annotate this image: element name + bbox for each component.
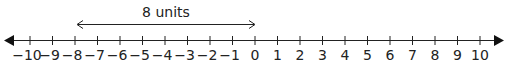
- tick-label: 0: [251, 47, 260, 63]
- distance-label: 8 units: [142, 4, 190, 20]
- tick-label: −3: [174, 47, 195, 63]
- left-end-arrow-icon: [4, 35, 14, 46]
- tick-label: −8: [62, 47, 83, 63]
- tick-label: 4: [341, 47, 350, 63]
- tick-label: −7: [84, 47, 105, 63]
- tick-label: −10: [12, 47, 42, 63]
- number-line: −10−9−8−7−6−5−4−3−2−1012345678910: [4, 35, 504, 63]
- tick-label: 6: [386, 47, 395, 63]
- tick-labels: −10−9−8−7−6−5−4−3−2−1012345678910: [12, 47, 489, 63]
- tick-marks: [30, 36, 480, 45]
- tick-label: −4: [152, 47, 173, 63]
- tick-label: 3: [318, 47, 327, 63]
- tick-label: 7: [408, 47, 417, 63]
- tick-label: −9: [39, 47, 60, 63]
- tick-label: 2: [296, 47, 305, 63]
- tick-label: −1: [219, 47, 240, 63]
- tick-label: 1: [273, 47, 282, 63]
- tick-label: 8: [431, 47, 440, 63]
- tick-label: −2: [197, 47, 218, 63]
- tick-label: 5: [363, 47, 372, 63]
- tick-label: −5: [129, 47, 150, 63]
- distance-annotation: 8 units: [77, 4, 255, 29]
- tick-label: −6: [107, 47, 128, 63]
- number-line-diagram: 8 units −10−9−8−7−6−5−4−3−2−101234567891…: [0, 0, 508, 70]
- right-end-arrow-icon: [494, 35, 504, 46]
- tick-label: 9: [453, 47, 462, 63]
- tick-label: 10: [471, 47, 489, 63]
